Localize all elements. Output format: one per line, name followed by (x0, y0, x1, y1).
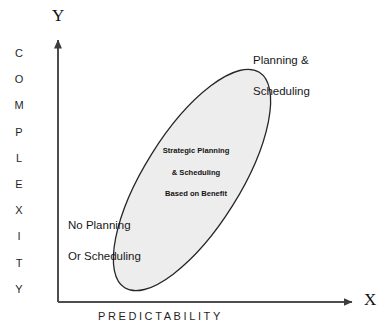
y-axis-caption-letter: Y (15, 276, 22, 302)
x-axis-endpoint-label: X (364, 290, 376, 310)
annotation-line: Based on Benefit (140, 189, 252, 198)
annotation-line: No Planning (68, 219, 141, 231)
annotation-line: Or Scheduling (68, 250, 141, 262)
annotation-line: Planning & (253, 54, 310, 66)
y-axis-caption-letter: C (15, 40, 23, 66)
annotation-line: Strategic Planning (140, 146, 252, 155)
y-axis-endpoint-label: Y (52, 6, 64, 26)
annotation-line: Scheduling (253, 85, 310, 97)
annotation-line: & Scheduling (140, 168, 252, 177)
annotation-planning-and-scheduling: Planning & Scheduling (253, 54, 310, 116)
y-axis-caption-letter: E (15, 171, 22, 197)
y-axis-caption-letter: I (17, 223, 20, 249)
y-axis-caption: C O M P L E X I T Y (10, 40, 28, 302)
y-axis-caption-letter: M (14, 92, 23, 118)
y-axis-caption-letter: P (15, 119, 22, 145)
y-axis-caption-letter: O (15, 66, 24, 92)
y-axis-caption-letter: L (16, 145, 22, 171)
diagram-canvas: Y X C O M P L E X I T Y PREDICTABILITY P… (0, 0, 390, 335)
y-axis-caption-letter: T (16, 250, 23, 276)
annotation-no-planning-or-scheduling: No Planning Or Scheduling (68, 219, 141, 281)
y-axis-caption-letter: X (15, 197, 22, 223)
annotation-strategic-planning-scheduling: Strategic Planning & Scheduling Based on… (140, 146, 252, 211)
x-axis-caption: PREDICTABILITY (98, 310, 223, 322)
